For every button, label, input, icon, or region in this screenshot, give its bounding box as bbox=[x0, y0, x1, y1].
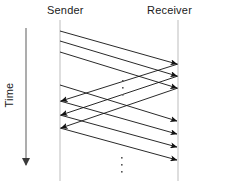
lifelines-group bbox=[60, 20, 178, 181]
message-arrow-a3 bbox=[61, 88, 178, 128]
diagram-svg bbox=[0, 0, 225, 187]
message-arrow-m7 bbox=[60, 128, 177, 160]
message-arrow-m1 bbox=[60, 31, 177, 64]
message-arrow-m6 bbox=[60, 115, 177, 147]
message-arrow-m2 bbox=[60, 41, 177, 76]
messages-group bbox=[60, 31, 178, 160]
timing-diagram-canvas: Sender Receiver Time bbox=[0, 0, 225, 187]
bottom-ellipsis bbox=[121, 157, 123, 173]
message-arrow-m4 bbox=[60, 85, 177, 121]
message-arrow-m5 bbox=[60, 101, 177, 134]
middle-ellipsis bbox=[122, 80, 124, 96]
